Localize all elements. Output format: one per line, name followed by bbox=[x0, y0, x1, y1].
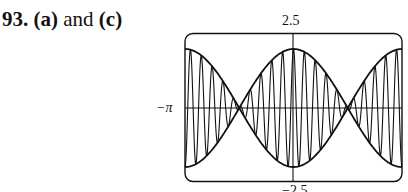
graph bbox=[0, 0, 408, 192]
